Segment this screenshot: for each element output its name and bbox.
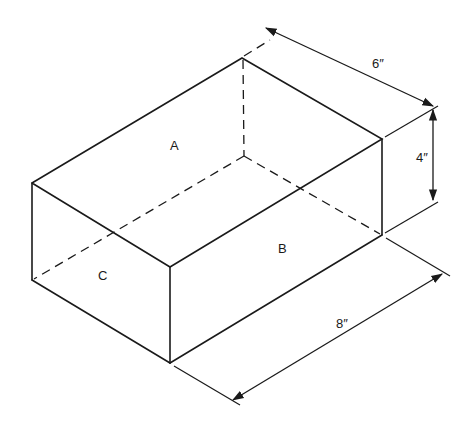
dimension-length-label: 8″	[336, 316, 348, 331]
dimension-lines	[233, 28, 442, 400]
visible-edges	[32, 58, 382, 363]
box-drawing	[0, 0, 464, 425]
hidden-edges	[34, 60, 380, 279]
dimension-width-label: 6″	[372, 56, 384, 71]
face-label-b: B	[278, 241, 287, 256]
face-label-a: A	[170, 138, 179, 153]
face-label-c: C	[98, 268, 107, 283]
dimension-height-label: 4″	[416, 150, 428, 165]
box-diagram: A B C 6″ 4″ 8″	[0, 0, 464, 425]
